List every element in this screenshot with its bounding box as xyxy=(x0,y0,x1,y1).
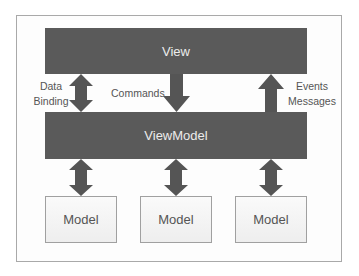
data-binding-line2: Binding xyxy=(32,94,70,109)
model-box-1: Model xyxy=(45,196,117,243)
events-line2: Messages xyxy=(287,94,337,109)
model-label-1: Model xyxy=(63,212,98,227)
model-link-arrow-3-icon xyxy=(259,159,283,196)
model-link-arrow-1-icon xyxy=(69,159,93,196)
events-arrow-icon xyxy=(258,74,284,112)
events-line1: Events xyxy=(287,79,337,94)
model-label-3: Model xyxy=(253,212,288,227)
data-binding-arrow-icon xyxy=(69,74,93,112)
data-binding-line1: Data xyxy=(32,79,70,94)
commands-arrow-icon xyxy=(163,74,190,112)
commands-label: Commands xyxy=(111,86,165,101)
model-link-arrow-2-icon xyxy=(164,159,188,196)
model-label-2: Model xyxy=(158,212,193,227)
model-box-2: Model xyxy=(140,196,212,243)
events-label: Events Messages xyxy=(287,79,337,109)
model-box-3: Model xyxy=(235,196,307,243)
data-binding-label: Data Binding xyxy=(32,79,70,109)
